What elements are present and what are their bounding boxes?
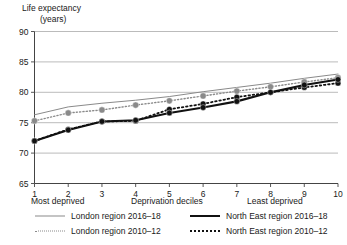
series-marker — [301, 82, 307, 88]
series-marker — [267, 84, 273, 90]
series-marker — [32, 138, 38, 144]
series-marker — [99, 119, 105, 125]
series-marker — [65, 110, 71, 116]
x-axis-caption-most-deprived: Most deprived — [31, 196, 84, 206]
series-marker — [335, 77, 341, 83]
x-axis-tick-label: 10 — [333, 189, 343, 199]
series-marker — [133, 117, 139, 123]
x-axis-caption-least-deprived: Least deprived — [247, 196, 303, 206]
legend-item-north-east-2010-12: North East region 2010–12 — [190, 226, 328, 236]
legend-label: North East region 2010–12 — [226, 226, 328, 236]
y-axis-tick-label: 80 — [19, 87, 29, 97]
legend-swatch-dotted-line-icon — [35, 227, 65, 236]
x-axis-tick-label: 3 — [100, 189, 105, 199]
life-expectancy-chart: Life expectancy (years) 6570758085901234… — [0, 0, 347, 245]
legend-item-london-2016-18: London region 2016–18 — [35, 211, 161, 221]
legend-label: North East region 2016–18 — [226, 211, 328, 221]
series-line — [35, 74, 339, 115]
x-axis-tick-label: 7 — [234, 189, 239, 199]
legend-swatch-dotted-line-icon — [190, 227, 220, 236]
series-marker — [65, 127, 71, 133]
series-marker — [268, 89, 274, 95]
y-axis-tick-label: 70 — [19, 148, 29, 158]
y-axis-title-line2: (years) — [40, 14, 66, 25]
x-axis-title: Deprivation deciles — [131, 196, 203, 206]
series-marker — [200, 105, 206, 111]
legend-label: London region 2016–18 — [71, 211, 161, 221]
series-marker — [133, 102, 139, 108]
series-marker — [234, 99, 240, 105]
series-marker — [200, 93, 206, 99]
y-axis-tick-label: 90 — [19, 27, 29, 37]
legend-swatch-line-icon — [35, 212, 65, 221]
series-marker — [99, 107, 105, 113]
legend-item-london-2010-12: London region 2010–12 — [35, 226, 161, 236]
series-marker — [166, 110, 172, 116]
series-line — [35, 78, 339, 121]
legend-item-north-east-2016-18: North East region 2016–18 — [190, 211, 328, 221]
plot-area: 65707580859012345678910 — [0, 0, 347, 245]
y-axis-tick-label: 85 — [19, 57, 29, 67]
legend-swatch-line-icon — [190, 212, 220, 221]
series-marker — [166, 98, 172, 104]
y-axis-tick-label: 75 — [19, 118, 29, 128]
y-axis-tick-label: 65 — [19, 179, 29, 189]
series-marker — [31, 118, 37, 124]
series-marker — [234, 88, 240, 94]
legend-label: London region 2010–12 — [71, 226, 161, 236]
y-axis-title-line1: Life expectancy — [22, 3, 81, 14]
